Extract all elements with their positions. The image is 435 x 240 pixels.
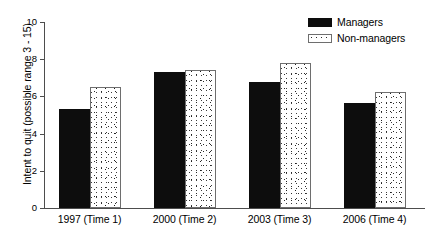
y-tick-label: 2 [16, 166, 37, 176]
x-tick-label: 2006 (Time 4) [320, 213, 430, 226]
bar-managers [154, 72, 185, 208]
bar-managers [59, 109, 90, 208]
bar-non-managers [375, 92, 406, 208]
bar-group [344, 22, 406, 208]
bar-managers [344, 103, 375, 208]
bar-non-managers [185, 70, 216, 208]
bar-group [249, 22, 311, 208]
y-tick-label: 4 [16, 129, 37, 139]
y-tick-mark [40, 96, 44, 97]
x-axis-line [44, 208, 425, 209]
x-tick-label: 1997 (Time 1) [35, 213, 145, 226]
y-tick-label: 10 [16, 17, 37, 27]
x-tick-label: 2000 (Time 2) [130, 213, 240, 226]
x-tick-label: 2003 (Time 3) [225, 213, 335, 226]
y-tick-label: 8 [16, 54, 37, 64]
legend-item-non-managers: Non-managers [308, 31, 405, 45]
bar-managers [249, 82, 280, 208]
y-tick-mark [40, 134, 44, 135]
legend-label-non-managers: Non-managers [337, 32, 405, 44]
bar-non-managers [280, 63, 311, 208]
bar-chart: Intent to quit (possible range 3 - 15) 0… [0, 0, 435, 240]
bar-non-managers [90, 87, 121, 208]
bar-group [59, 22, 121, 208]
chart-legend: Managers Non-managers [308, 15, 405, 47]
legend-item-managers: Managers [308, 15, 405, 29]
y-axis-title: Intent to quit (possible range 3 - 15) [18, 0, 36, 208]
legend-swatch-managers-icon [308, 18, 332, 27]
y-tick-mark [40, 59, 44, 60]
y-tick-label: 6 [16, 91, 37, 101]
y-tick-mark [40, 208, 44, 209]
y-tick-label: 0 [16, 203, 37, 213]
y-tick-mark [40, 171, 44, 172]
legend-label-managers: Managers [337, 16, 383, 28]
legend-swatch-non-managers-icon [308, 34, 332, 43]
plot-area [45, 22, 425, 208]
y-tick-mark [40, 22, 44, 23]
bar-group [154, 22, 216, 208]
